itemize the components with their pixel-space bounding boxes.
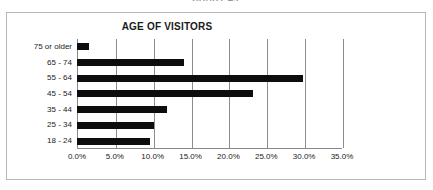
category-label: 25 - 34: [47, 121, 72, 129]
x-tick-label: 0.0%: [68, 153, 86, 161]
bar-row: 55 - 64: [77, 70, 342, 86]
x-tick-label: 15.0%: [179, 153, 202, 161]
x-tick-label: 25.0%: [255, 153, 278, 161]
x-tick-label: 20.0%: [217, 153, 240, 161]
bar-row: 25 - 34: [77, 118, 342, 134]
category-label: 45 - 54: [47, 90, 72, 98]
category-label: 18 - 24: [47, 137, 72, 145]
bar[interactable]: [77, 90, 253, 97]
bar-row: 65 - 74: [77, 55, 342, 71]
bar[interactable]: [77, 75, 303, 82]
gridline: [343, 39, 344, 148]
x-tick-label: 35.0%: [331, 153, 354, 161]
category-label: 75 or older: [34, 43, 72, 51]
bar-row: 18 - 24: [77, 133, 342, 149]
bar-row: 35 - 44: [77, 102, 342, 118]
figure-caption: CHART 4.2: [0, 0, 433, 1]
bar-row: 45 - 54: [77, 86, 342, 102]
category-label: 65 - 74: [47, 59, 72, 67]
chart-frame: AGE OF VISITORS 18 - 2425 - 3435 - 4445 …: [6, 12, 426, 180]
plot-wrap: 18 - 2425 - 3435 - 4445 - 5455 - 6465 - …: [77, 39, 342, 149]
bar[interactable]: [77, 43, 89, 50]
bar-row: 75 or older: [77, 39, 342, 55]
x-tick-label: 30.0%: [293, 153, 316, 161]
bar[interactable]: [77, 138, 150, 145]
category-label: 55 - 64: [47, 74, 72, 82]
bar[interactable]: [77, 122, 154, 129]
x-tick-label: 10.0%: [141, 153, 164, 161]
bar[interactable]: [77, 59, 184, 66]
category-label: 35 - 44: [47, 106, 72, 114]
x-tick-label: 5.0%: [106, 153, 124, 161]
bar[interactable]: [77, 106, 167, 113]
chart-title: AGE OF VISITORS: [7, 21, 327, 32]
